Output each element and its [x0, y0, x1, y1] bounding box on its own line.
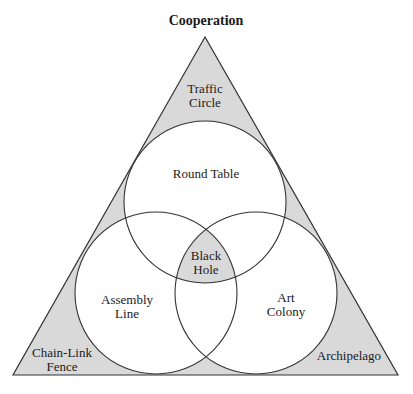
circle-left-label-2: Line	[115, 306, 139, 321]
venn-triangle-diagram: Cooperation Traffic Circle Chain-Link Fe…	[0, 0, 413, 394]
corner-top-label-1: Traffic	[187, 81, 223, 96]
diagram-title: Cooperation	[169, 13, 244, 28]
circle-right-label-2: Colony	[267, 304, 306, 319]
center-label-1: Black	[191, 248, 222, 263]
circle-right-label-1: Art	[277, 290, 295, 305]
corner-top-label-2: Circle	[189, 95, 221, 110]
corner-right-label: Archipelago	[317, 348, 381, 363]
circle-top-label: Round Table	[173, 166, 240, 181]
center-label-2: Hole	[193, 262, 219, 277]
corner-left-label-1: Chain-Link	[32, 345, 92, 360]
corner-left-label-2: Fence	[46, 359, 77, 374]
circle-left-label-1: Assembly	[101, 292, 154, 307]
